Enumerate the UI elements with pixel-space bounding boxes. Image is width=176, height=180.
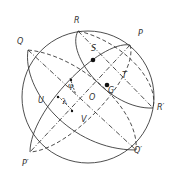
sphere-diagram [0, 0, 176, 180]
label-O: O [89, 94, 95, 102]
axis-PP [30, 45, 130, 152]
label-P: P [138, 30, 143, 38]
label-T: T [122, 72, 127, 80]
diagram-canvas: R P Q S T G O U V R′ Q′ P′ φ λ [0, 0, 176, 180]
label-lambda: λ [62, 98, 67, 106]
label-G: G [108, 87, 114, 95]
label-phi: φ [68, 82, 74, 90]
lambda-arrow-tip [57, 96, 59, 98]
label-Q-prime: Q′ [134, 147, 142, 155]
label-R: R [74, 17, 80, 25]
label-U: U [38, 97, 44, 105]
axis-QQ [28, 50, 136, 150]
label-P-prime: P′ [22, 160, 29, 168]
label-V: V [81, 116, 86, 124]
right-angle-mark [71, 110, 73, 112]
label-Q: Q [17, 38, 23, 46]
label-R-prime: R′ [157, 104, 164, 112]
point-S-dot [91, 58, 96, 63]
label-S: S [91, 45, 96, 53]
